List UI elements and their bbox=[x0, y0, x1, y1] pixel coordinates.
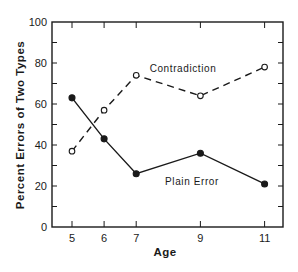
plot-frame bbox=[52, 22, 283, 227]
x-axis-title: Age bbox=[153, 246, 176, 258]
x-tick-label: 6 bbox=[101, 232, 107, 244]
open-circle-marker bbox=[101, 107, 107, 113]
y-tick-label: 0 bbox=[41, 221, 47, 233]
filled-circle-marker bbox=[133, 171, 139, 177]
series-layer bbox=[69, 64, 268, 187]
y-tick-label: 80 bbox=[35, 57, 47, 69]
contradiction-label: Contradiction bbox=[150, 63, 217, 74]
y-tick-label: 40 bbox=[35, 139, 47, 151]
x-tick-label: 9 bbox=[197, 232, 203, 244]
plain-error-label: Plain Error bbox=[165, 176, 219, 187]
x-tick-label: 5 bbox=[69, 232, 75, 244]
y-tick-label: 100 bbox=[29, 16, 47, 28]
y-axis-title: Percent Errors of Two Types bbox=[14, 41, 26, 209]
filled-circle-marker bbox=[262, 181, 268, 187]
y-axis: 020406080100 bbox=[29, 16, 283, 233]
line-chart: 020406080100 567911 Age Percent Errors o… bbox=[0, 0, 298, 272]
open-circle-marker bbox=[69, 148, 75, 154]
y-tick-label: 60 bbox=[35, 98, 47, 110]
filled-circle-marker bbox=[101, 136, 107, 142]
x-tick-label: 11 bbox=[259, 232, 270, 244]
open-circle-marker bbox=[133, 73, 139, 79]
x-tick-label: 7 bbox=[133, 232, 139, 244]
filled-circle-marker bbox=[69, 95, 75, 101]
open-circle-marker bbox=[198, 93, 204, 99]
open-circle-marker bbox=[262, 64, 268, 70]
y-tick-label: 20 bbox=[35, 180, 47, 192]
filled-circle-marker bbox=[197, 150, 203, 156]
